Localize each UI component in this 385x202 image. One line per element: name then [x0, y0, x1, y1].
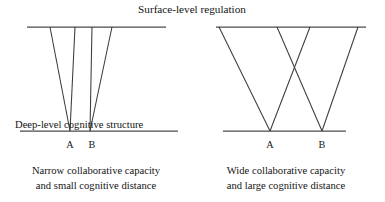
panel-wide: A B Wide collaborative capacity and larg… — [216, 27, 366, 191]
wide-node-label-a: A — [266, 139, 274, 150]
narrow-edge-4 — [90, 27, 112, 131]
diagram-figure: Surface-level regulation A B Narrow coll… — [0, 0, 385, 202]
narrow-edge-3 — [90, 27, 92, 131]
narrow-edge-1 — [50, 27, 70, 131]
narrow-node-label-a: A — [66, 139, 74, 150]
wide-edge-1 — [219, 27, 270, 131]
panel-narrow: A B Narrow collaborative capacity and sm… — [20, 27, 178, 191]
narrow-edge-2 — [70, 27, 75, 131]
wide-edge-2 — [270, 27, 310, 131]
diagram-title: Surface-level regulation — [138, 3, 246, 15]
narrow-caption-line-1: Narrow collaborative capacity — [32, 165, 161, 176]
narrow-node-label-b: B — [89, 139, 96, 150]
deep-level-structure-label: Deep-level cognitive structure — [15, 119, 144, 130]
wide-edge-4 — [322, 27, 358, 131]
wide-node-label-b: B — [319, 139, 326, 150]
wide-caption-line-1: Wide collaborative capacity — [227, 165, 346, 176]
diagram-canvas: Surface-level regulation A B Narrow coll… — [0, 0, 385, 202]
narrow-caption-line-2: and small cognitive distance — [36, 180, 157, 191]
wide-caption-line-2: and large cognitive distance — [227, 180, 346, 191]
wide-edge-3 — [277, 27, 322, 131]
